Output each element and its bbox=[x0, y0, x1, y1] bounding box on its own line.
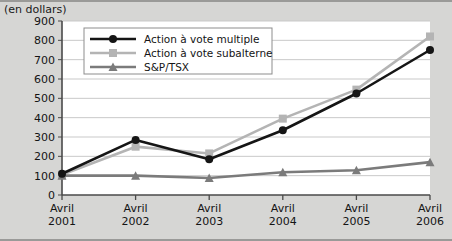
legend-label: Action à vote subalterne bbox=[144, 47, 273, 59]
y-tick-label: 700 bbox=[34, 54, 55, 67]
data-point-circle bbox=[109, 35, 117, 43]
data-point-square bbox=[279, 115, 287, 123]
x-tick-label: Avril bbox=[50, 202, 74, 215]
data-point-circle bbox=[205, 155, 213, 163]
x-tick-label: 2002 bbox=[122, 215, 150, 228]
data-point-square bbox=[426, 32, 434, 40]
data-point-square bbox=[109, 49, 117, 57]
data-point-circle bbox=[58, 170, 66, 178]
x-tick-label: Avril bbox=[271, 202, 295, 215]
y-tick-label: 900 bbox=[34, 15, 55, 28]
legend-label: Action à vote multiple bbox=[144, 33, 259, 45]
x-tick-label: 2005 bbox=[342, 215, 370, 228]
x-tick-label: Avril bbox=[344, 202, 368, 215]
legend-label: S&P/TSX bbox=[144, 61, 189, 73]
x-tick-label: Avril bbox=[197, 202, 221, 215]
y-tick-label: 200 bbox=[34, 150, 55, 163]
y-tick-label: 300 bbox=[34, 131, 55, 144]
x-tick-label: Avril bbox=[418, 202, 442, 215]
y-tick-label: 600 bbox=[34, 73, 55, 86]
chart-frame: (en dollars) 010020030040050060070080090… bbox=[0, 0, 452, 241]
y-tick-label: 0 bbox=[48, 189, 55, 202]
line-chart: 0100200300400500600700800900Avril2001Avr… bbox=[0, 2, 452, 241]
x-tick-label: 2003 bbox=[195, 215, 223, 228]
data-point-circle bbox=[132, 136, 140, 144]
data-point-circle bbox=[426, 46, 434, 54]
y-tick-label: 500 bbox=[34, 92, 55, 105]
y-tick-label: 400 bbox=[34, 112, 55, 125]
y-tick-label: 800 bbox=[34, 34, 55, 47]
x-tick-label: Avril bbox=[124, 202, 148, 215]
x-tick-label: 2006 bbox=[416, 215, 444, 228]
data-point-circle bbox=[352, 90, 360, 98]
x-tick-label: 2001 bbox=[48, 215, 76, 228]
y-tick-label: 100 bbox=[34, 170, 55, 183]
chart-legend: Action à vote multipleAction à vote suba… bbox=[84, 28, 273, 74]
data-point-circle bbox=[279, 126, 287, 134]
x-tick-label: 2004 bbox=[269, 215, 297, 228]
